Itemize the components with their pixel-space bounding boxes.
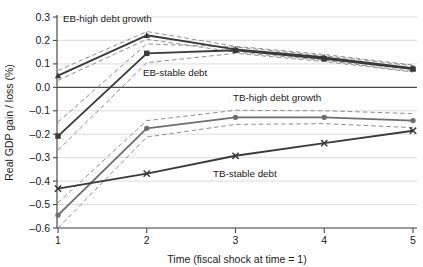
y-tick-label: –0.5 bbox=[30, 198, 51, 210]
y-tick-label: –0.4 bbox=[30, 175, 51, 187]
series-annotation-label: EB-high debt growth bbox=[63, 13, 152, 24]
data-point-marker bbox=[410, 66, 415, 71]
chart-figure: 0.30.20.10.0–0.1–0.2–0.3–0.4–0.5–0.61234… bbox=[0, 0, 423, 267]
data-point-marker bbox=[233, 48, 238, 53]
y-tick-label: –0.2 bbox=[30, 128, 51, 140]
y-tick-label: 0.3 bbox=[35, 11, 50, 23]
y-tick-label: 0.1 bbox=[35, 57, 50, 69]
y-tick-label: 0.0 bbox=[35, 81, 50, 93]
y-tick-label: –0.6 bbox=[30, 222, 51, 234]
series-line bbox=[58, 35, 413, 75]
data-point-marker bbox=[144, 51, 149, 56]
series-line bbox=[58, 131, 413, 189]
series-annotation-label: TB-stable debt bbox=[213, 168, 277, 179]
y-tick-label: –0.3 bbox=[30, 151, 51, 163]
y-axis-title: Real GDP gain / loss (%) bbox=[3, 64, 15, 181]
data-point-marker bbox=[55, 133, 60, 138]
data-point-marker bbox=[322, 115, 327, 120]
series-line bbox=[58, 117, 413, 215]
data-point-marker bbox=[233, 115, 238, 120]
y-tick-label: 0.2 bbox=[35, 34, 50, 46]
x-tick-label: 5 bbox=[410, 234, 416, 246]
line-chart: 0.30.20.10.0–0.1–0.2–0.3–0.4–0.5–0.61234… bbox=[0, 0, 423, 267]
data-point-marker bbox=[322, 56, 327, 61]
data-point-marker bbox=[144, 126, 149, 131]
data-point-marker bbox=[410, 118, 415, 123]
data-point-marker bbox=[55, 212, 60, 217]
x-tick-label: 1 bbox=[55, 234, 61, 246]
x-tick-label: 4 bbox=[321, 234, 327, 246]
series-annotation-label: EB-stable debt bbox=[143, 67, 208, 78]
x-axis-title: Time (fiscal shock at time = 1) bbox=[167, 253, 306, 265]
x-tick-label: 2 bbox=[144, 234, 150, 246]
x-tick-label: 3 bbox=[233, 234, 239, 246]
series-annotation-label: TB-high debt growth bbox=[233, 92, 321, 103]
y-tick-label: –0.1 bbox=[30, 104, 51, 116]
